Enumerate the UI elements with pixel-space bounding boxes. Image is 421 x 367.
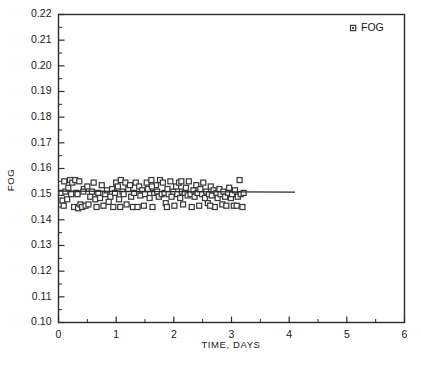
y-tick-label: 0.10	[31, 315, 52, 327]
data-point	[183, 185, 188, 190]
data-point	[164, 205, 169, 210]
data-point	[62, 179, 67, 184]
data-point	[189, 205, 194, 210]
data-point	[75, 192, 80, 197]
data-point	[186, 179, 191, 184]
data-point	[178, 196, 183, 201]
y-tick-label: 0.13	[31, 238, 52, 250]
data-point	[150, 205, 155, 210]
y-tick-label: 0.12	[31, 264, 52, 276]
y-tick-label: 0.17	[31, 136, 52, 148]
data-point	[149, 184, 154, 189]
x-tick-label: 6	[402, 328, 408, 340]
y-tick-label: 0.18	[31, 110, 52, 122]
data-point	[227, 185, 232, 190]
data-point	[106, 199, 111, 204]
data-point	[172, 203, 177, 208]
data-point	[160, 180, 165, 185]
data-point	[117, 197, 122, 202]
chart-legend[interactable]: FOG	[351, 21, 384, 33]
legend-label: FOG	[361, 21, 384, 33]
data-point	[234, 203, 239, 208]
y-tick-label: 0.22	[31, 7, 52, 19]
data-point	[224, 203, 229, 208]
data-point	[101, 203, 106, 208]
data-point	[98, 196, 103, 201]
y-tick-label: 0.21	[31, 33, 52, 45]
data-point	[165, 187, 170, 192]
chart-container: 0.100.110.120.130.140.150.160.170.180.19…	[0, 0, 421, 367]
y-tick-label: 0.16	[31, 161, 52, 173]
data-point	[66, 185, 71, 190]
data-point	[135, 205, 140, 210]
x-tick-label: 5	[344, 328, 350, 340]
y-tick-label: 0.14	[31, 213, 52, 225]
data-point	[181, 202, 186, 207]
plot-axes	[59, 15, 405, 323]
y-axis-ticks: 0.100.110.120.130.140.150.160.170.180.19…	[31, 7, 64, 327]
data-point	[111, 205, 116, 210]
data-point	[128, 183, 133, 188]
data-point	[208, 203, 213, 208]
y-tick-label: 0.11	[32, 290, 52, 302]
x-tick-label: 0	[56, 328, 62, 340]
x-tick-label: 4	[286, 328, 292, 340]
x-axis-ticks: 0123456	[56, 317, 408, 340]
plot-frame	[59, 15, 405, 323]
y-axis-label: FOG	[5, 169, 16, 191]
data-point	[77, 179, 82, 184]
data-point	[121, 192, 126, 197]
x-tick-label: 1	[113, 328, 119, 340]
data-point	[240, 205, 245, 210]
data-point	[118, 205, 123, 210]
y-tick-label: 0.15	[31, 187, 52, 199]
data-point	[88, 194, 93, 199]
data-point	[85, 184, 90, 189]
y-tick-label: 0.19	[31, 84, 52, 96]
data-point	[201, 180, 206, 185]
data-point	[86, 202, 91, 207]
x-axis-label: TIME, DAYS	[201, 339, 260, 350]
data-point	[141, 203, 146, 208]
legend-marker-center-icon	[352, 27, 354, 29]
data-point	[241, 190, 246, 195]
data-point	[61, 203, 66, 208]
y-tick-label: 0.20	[31, 59, 52, 71]
data-point	[94, 205, 99, 210]
data-point	[99, 183, 104, 188]
data-point	[147, 196, 152, 201]
data-point	[124, 202, 129, 207]
data-point	[169, 194, 174, 199]
data-point	[168, 179, 173, 184]
data-point	[104, 188, 109, 193]
data-point	[197, 203, 202, 208]
data-point	[179, 179, 184, 184]
data-point	[198, 187, 203, 192]
data-point	[69, 192, 74, 197]
x-tick-label: 2	[171, 328, 177, 340]
scatter-plot: 0.100.110.120.130.140.150.160.170.180.19…	[0, 0, 421, 367]
data-point	[115, 184, 120, 189]
data-point	[149, 178, 154, 183]
data-point	[91, 180, 96, 185]
x-tick-label: 3	[229, 328, 235, 340]
data-series-fog	[59, 178, 246, 211]
data-point	[65, 197, 70, 202]
data-point	[237, 178, 242, 183]
